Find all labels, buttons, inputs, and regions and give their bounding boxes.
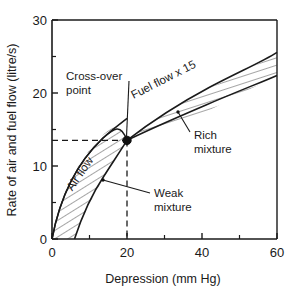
crossover-label-line1: Cross-over bbox=[66, 70, 122, 82]
chart-svg: 0 10 20 30 0 20 40 60 Rate of air and fu… bbox=[0, 0, 295, 292]
crossover-point-marker bbox=[123, 136, 131, 144]
rich-mixture-label-line1: Rich bbox=[194, 129, 217, 141]
chart-background bbox=[0, 0, 295, 292]
y-axis-title: Rate of air and fuel flow (litre/s) bbox=[5, 44, 19, 217]
y-tick-label-10: 10 bbox=[33, 159, 47, 174]
weak-mixture-label-line2: mixture bbox=[154, 201, 192, 213]
y-tick-label-0: 0 bbox=[40, 232, 47, 247]
chart-figure: 0 10 20 30 0 20 40 60 Rate of air and fu… bbox=[0, 0, 295, 292]
y-tick-label-20: 20 bbox=[33, 86, 47, 101]
x-tick-label-40: 40 bbox=[195, 245, 209, 260]
x-axis-title: Depression (mm Hg) bbox=[105, 272, 220, 286]
rich-mixture-leader-dot bbox=[176, 110, 179, 113]
weak-mixture-label-line1: Weak bbox=[154, 187, 183, 199]
crossover-label-line2: point bbox=[66, 84, 92, 96]
x-tick-label-20: 20 bbox=[120, 245, 134, 260]
y-tick-label-30: 30 bbox=[33, 13, 47, 28]
x-tick-label-60: 60 bbox=[270, 245, 284, 260]
rich-mixture-label-line2: mixture bbox=[194, 143, 232, 155]
x-tick-label-0: 0 bbox=[48, 245, 55, 260]
weak-mixture-leader-dot bbox=[101, 178, 104, 181]
